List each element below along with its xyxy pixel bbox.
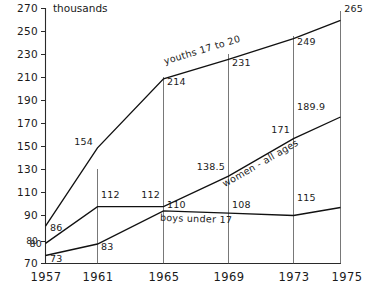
- ytick-270: 270: [17, 2, 38, 14]
- label-youths-1961: 154: [74, 136, 93, 147]
- y-axis-unit-label: thousands: [53, 2, 108, 14]
- label-boys-1969: 110: [167, 199, 186, 210]
- series-label-boys: boys under 17: [160, 212, 233, 225]
- ytick-210: 210: [17, 71, 38, 83]
- label-women-1957: 80: [30, 238, 43, 249]
- label-women-1973: 171: [271, 124, 290, 135]
- xtick-1957: 1957: [31, 270, 62, 284]
- ytick-70: 70: [24, 257, 38, 269]
- ytick-190: 190: [17, 94, 38, 106]
- xtick-1961: 1961: [83, 270, 114, 284]
- label-youths-1973: 249: [297, 36, 316, 47]
- label-youths-1965: 214: [167, 76, 186, 87]
- xtick-1969: 1969: [214, 270, 245, 284]
- label-boys-1961: 83: [101, 241, 114, 252]
- label-boys-1957: 73: [50, 253, 63, 264]
- ytick-230: 230: [17, 48, 38, 60]
- ytick-90: 90: [24, 209, 38, 221]
- label-women-1975: 189.9: [297, 101, 325, 112]
- xtick-1973: 1973: [279, 270, 310, 284]
- ytick-150: 150: [17, 140, 38, 152]
- ytick-110: 110: [17, 186, 38, 198]
- label-youths-1975: 265: [344, 3, 363, 14]
- label-boys-1975: 115: [297, 192, 316, 203]
- ytick-170: 170: [17, 117, 38, 129]
- ytick-130: 130: [17, 163, 38, 175]
- xtick-1975: 1975: [332, 270, 363, 284]
- label-boys-1973: 108: [232, 199, 251, 210]
- chart-canvas: 270 250 230 210 190 170 150 130 110 90 8…: [0, 0, 366, 287]
- label-women-1965: 112: [141, 189, 160, 200]
- ytick-250: 250: [17, 25, 38, 37]
- line-chart: 270 250 230 210 190 170 150 130 110 90 8…: [0, 0, 366, 287]
- label-women-1969: 138.5: [197, 161, 225, 172]
- label-youths-1969: 231: [232, 57, 251, 68]
- label-youths-1957: 86: [50, 222, 63, 233]
- label-women-1961: 112: [101, 189, 120, 200]
- xtick-1965: 1965: [149, 270, 180, 284]
